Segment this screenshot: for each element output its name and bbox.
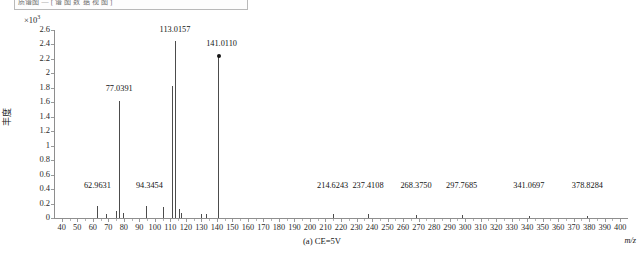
- y-axis-tick-label: 1.8: [20, 82, 50, 92]
- spectrum-peak: [175, 41, 176, 218]
- x-axis-minor-tick-mark: [271, 219, 272, 221]
- x-axis-tick-label: 390: [598, 223, 610, 232]
- x-axis-minor-tick-mark: [411, 219, 412, 221]
- plot-area: 62.963177.039194.3454113.0157141.0110214…: [54, 30, 628, 218]
- y-axis-tick-label: 0.4: [20, 183, 50, 193]
- mass-spectrum-figure: 质谱图 — [ 谱 图 数 据 视 图 ] ×103 丰度 2.62.42.22…: [0, 0, 644, 258]
- spectrum-peak: [106, 214, 107, 218]
- x-axis-tick-mark: [325, 219, 326, 222]
- peak-label: 268.3750: [400, 181, 431, 190]
- x-axis-tick-mark: [589, 219, 590, 222]
- x-axis-tick-label: 170: [257, 223, 269, 232]
- x-axis-tick-mark: [372, 219, 373, 222]
- y-axis-tick-mark: [51, 59, 54, 60]
- y-axis-tick-label: 1.2: [20, 125, 50, 135]
- x-axis-minor-tick-mark: [395, 219, 396, 221]
- x-axis-tick-mark: [558, 219, 559, 222]
- x-axis-tick-mark: [217, 219, 218, 222]
- x-axis-tick-label: 80: [120, 223, 128, 232]
- x-axis-tick-mark: [77, 219, 78, 222]
- y-axis-tick-label: 0.2: [20, 198, 50, 208]
- peak-label: 378.8284: [572, 181, 603, 190]
- x-axis-minor-tick-mark: [85, 219, 86, 221]
- spectrum-peak: [201, 214, 202, 218]
- x-axis-tick-label: 370: [567, 223, 579, 232]
- x-axis-minor-tick-mark: [194, 219, 195, 221]
- x-axis-tick-label: 110: [164, 223, 176, 232]
- spectrum-peak: [368, 214, 369, 218]
- y-axis-tick-label: 1.6: [20, 96, 50, 106]
- x-axis-tick-mark: [605, 219, 606, 222]
- spectrum-peak: [333, 214, 334, 218]
- x-axis-tick-mark: [512, 219, 513, 222]
- x-axis-minor-tick-mark: [581, 219, 582, 221]
- y-axis-tick-label: 2: [20, 67, 50, 77]
- spectrum-peak: [181, 213, 182, 218]
- peak-label: 341.0697: [513, 181, 544, 190]
- x-axis-minor-tick-mark: [597, 219, 598, 221]
- x-axis-minor-tick-mark: [380, 219, 381, 221]
- x-axis-minor-tick-mark: [209, 219, 210, 221]
- x-axis-tick-mark: [93, 219, 94, 222]
- x-axis-minor-tick-mark: [442, 219, 443, 221]
- y-axis-tick-mark: [51, 160, 54, 161]
- spectrum-peak: [116, 211, 117, 218]
- x-axis-tick-mark: [155, 219, 156, 222]
- x-axis-tick-mark: [279, 219, 280, 222]
- x-axis-tick-mark: [139, 219, 140, 222]
- x-axis-tick-label: 130: [195, 223, 207, 232]
- x-axis-tick-label: 60: [89, 223, 97, 232]
- x-axis-minor-tick-mark: [132, 219, 133, 221]
- x-axis-tick-label: 90: [135, 223, 143, 232]
- spectrum-peak: [97, 206, 98, 218]
- x-axis-tick-mark: [310, 219, 311, 222]
- x-axis-minor-tick-mark: [302, 219, 303, 221]
- x-axis-tick-mark: [434, 219, 435, 222]
- x-axis-tick-label: 210: [319, 223, 331, 232]
- x-axis-minor-tick-mark: [333, 219, 334, 221]
- x-axis-minor-tick-mark: [535, 219, 536, 221]
- x-axis-tick-mark: [341, 219, 342, 222]
- x-axis-tick-mark: [62, 219, 63, 222]
- x-axis-minor-tick-mark: [240, 219, 241, 221]
- x-axis-minor-tick-mark: [519, 219, 520, 221]
- y-axis-tick-label: 2.2: [20, 53, 50, 63]
- spectrum-peak: [172, 86, 173, 218]
- spectrum-peak: [218, 56, 219, 218]
- x-axis-minor-tick-mark: [163, 219, 164, 221]
- x-axis-title: m/z: [624, 236, 636, 245]
- x-axis-tick-mark: [481, 219, 482, 222]
- x-axis-tick-label: 340: [521, 223, 533, 232]
- x-axis-tick-label: 280: [428, 223, 440, 232]
- x-axis-tick-label: 330: [505, 223, 517, 232]
- y-axis-tick-mark: [51, 88, 54, 89]
- x-axis-minor-tick-mark: [101, 219, 102, 221]
- x-axis-tick-mark: [388, 219, 389, 222]
- x-axis-tick-mark: [574, 219, 575, 222]
- spectrum-peak: [119, 101, 120, 218]
- x-axis-minor-tick-mark: [178, 219, 179, 221]
- x-axis-minor-tick-mark: [70, 219, 71, 221]
- x-axis-tick-mark: [186, 219, 187, 222]
- x-axis-tick-mark: [201, 219, 202, 222]
- x-axis-tick-mark: [403, 219, 404, 222]
- x-axis-tick-mark: [248, 219, 249, 222]
- y-axis-tick-mark: [51, 30, 54, 31]
- x-axis-minor-tick-mark: [287, 219, 288, 221]
- y-axis-tick-mark: [51, 204, 54, 205]
- figure-caption: (a) CE=5V: [0, 236, 644, 246]
- x-axis-tick-mark: [620, 219, 621, 222]
- y-axis-tick-mark: [51, 189, 54, 190]
- y-axis-tick-mark: [51, 218, 54, 219]
- x-axis-tick-mark: [543, 219, 544, 222]
- base-peak-marker: [217, 54, 221, 58]
- peak-label: 237.4108: [352, 181, 383, 190]
- x-axis-tick-label: 140: [211, 223, 223, 232]
- x-axis-tick-label: 50: [73, 223, 81, 232]
- x-axis-tick-mark: [232, 219, 233, 222]
- x-axis-minor-tick-mark: [116, 219, 117, 221]
- x-axis-tick-label: 160: [242, 223, 254, 232]
- x-axis-tick-label: 230: [350, 223, 362, 232]
- x-axis-tick-label: 200: [304, 223, 316, 232]
- x-axis-tick-label: 150: [226, 223, 238, 232]
